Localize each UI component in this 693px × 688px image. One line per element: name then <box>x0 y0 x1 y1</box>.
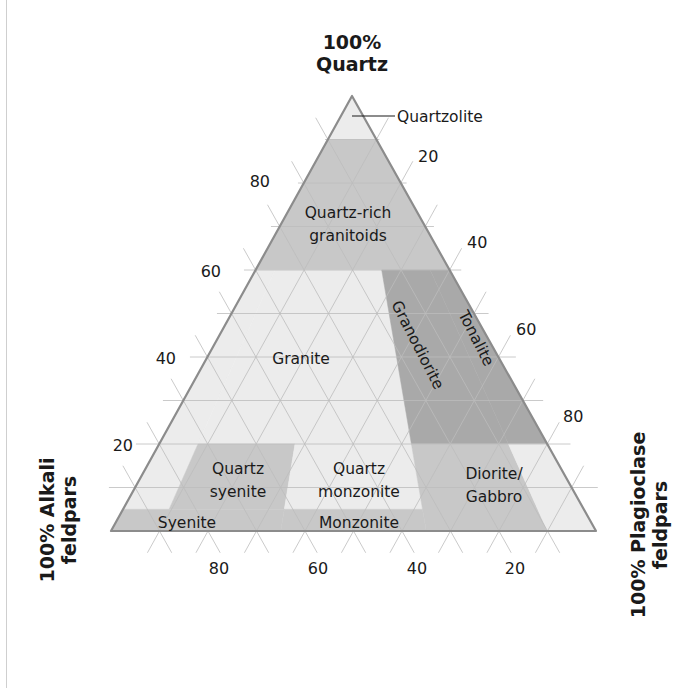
region-label-syenite: Syenite <box>158 514 216 532</box>
bottom-tick-40: 40 <box>407 559 427 578</box>
left-tick-80: 80 <box>250 172 270 191</box>
left-tick-40: 40 <box>156 349 176 368</box>
right-tick-60: 60 <box>516 320 536 339</box>
region-label-monzonite: Monzonite <box>319 514 399 532</box>
region-label-quartz-rich-granitoids-2: granitoids <box>309 227 387 245</box>
left-tick-60: 60 <box>201 262 221 281</box>
corner-label-quartz-pct: 100% <box>323 31 382 53</box>
bottom-tick-80: 80 <box>209 559 229 578</box>
qapf-ternary-diagram: 100% Quartz 100% Alkali feldpars 100% Pl… <box>0 0 693 688</box>
region-label-quartz-monzonite-2: monzonite <box>318 483 400 501</box>
corner-label-quartz: Quartz <box>316 53 388 75</box>
corner-label-plagioclase-line1: 100% Plagioclase <box>627 432 649 619</box>
region-label-quartz-syenite-2: syenite <box>210 483 267 501</box>
bottom-tick-20: 20 <box>505 559 525 578</box>
corner-label-alkali-feldspars-line1: 100% Alkali <box>36 457 58 582</box>
right-tick-40: 40 <box>467 233 487 252</box>
region-label-quartz-monzonite-1: Quartz <box>333 460 385 478</box>
corner-label-alkali-feldspars-line2: feldpars <box>58 476 80 564</box>
right-tick-20: 20 <box>418 147 438 166</box>
region-quartzolite <box>328 96 377 140</box>
region-label-diorite-2: Gabbro <box>466 488 523 506</box>
region-label-quartz-rich-granitoids-1: Quartz-rich <box>305 204 392 222</box>
bottom-tick-60: 60 <box>308 559 328 578</box>
region-label-diorite-1: Diorite/ <box>465 465 523 483</box>
region-label-quartzolite: Quartzolite <box>397 108 483 126</box>
right-tick-80: 80 <box>563 407 583 426</box>
left-tick-20: 20 <box>113 436 133 455</box>
region-label-quartz-syenite-1: Quartz <box>212 460 264 478</box>
region-label-granite: Granite <box>272 350 330 368</box>
corner-label-plagioclase-line2: feldpars <box>649 481 671 569</box>
